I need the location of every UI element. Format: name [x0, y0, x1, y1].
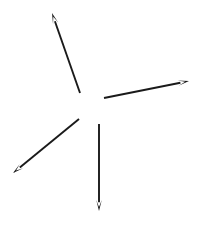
figure-background: [0, 0, 200, 229]
radial-arrow-figure: [0, 0, 200, 229]
figure-canvas: [0, 0, 200, 229]
